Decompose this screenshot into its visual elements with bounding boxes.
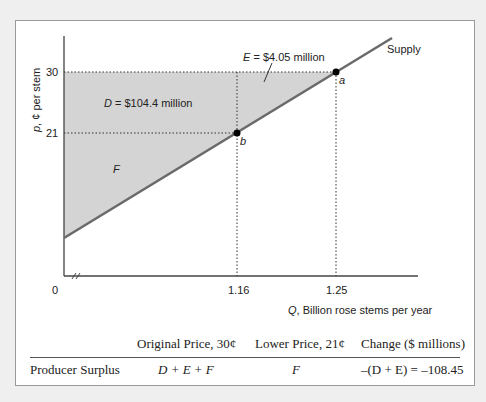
table-row-label: Producer Surplus [30, 362, 120, 378]
table-cell-change: –(D + E) = –108.45 [361, 362, 463, 378]
point-a-label: a [339, 74, 345, 86]
x-axis-label: Q, Billion rose stems per year [288, 304, 433, 316]
table-cell-original: D + E + F [158, 362, 214, 378]
x-tick-0: 0 [52, 284, 58, 296]
y-tick-21: 21 [46, 127, 58, 139]
point-b-label: b [240, 135, 246, 147]
area-d-label: D = $104.4 million [104, 97, 192, 109]
y-tick-30: 30 [46, 66, 58, 78]
x-tick-116: 1.16 [228, 284, 249, 296]
area-e-label: E = $4.05 million [243, 51, 325, 63]
y-axis-label: p, ¢ per stem [30, 68, 42, 133]
table-header-change: Change ($ millions) [361, 336, 465, 352]
table-cell-lower: F [292, 362, 300, 378]
table-header-original: Original Price, 30¢ [137, 336, 236, 352]
x-tick-125: 1.25 [326, 284, 347, 296]
table-rule [30, 357, 460, 358]
table-header-lower: Lower Price, 21¢ [255, 336, 345, 352]
supply-label: Supply [387, 43, 421, 55]
